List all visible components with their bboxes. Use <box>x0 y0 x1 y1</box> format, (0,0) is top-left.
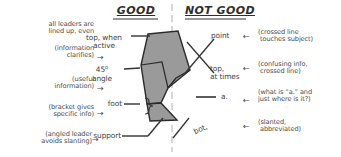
degree-symbol-icon: o <box>105 64 108 70</box>
leader-45-angle <box>124 68 140 69</box>
subject-part-foot-divider <box>147 103 161 104</box>
note-what-is-a: (what is “a.” and just where is it?) <box>258 89 340 104</box>
label-45-angle: 45o angle <box>82 65 122 83</box>
note-slanted-abbreviated: (slanted, abbreviated) <box>258 119 340 134</box>
label-a: a. <box>221 93 228 101</box>
label-angle-word: angle <box>92 74 112 83</box>
label-point: point <box>211 32 229 40</box>
label-bot: bot, <box>193 123 209 136</box>
arrow-left-icon-crossed-touches: ← <box>243 33 250 41</box>
label-top-when-active: top, when active <box>78 34 130 51</box>
arrow-left-icon-confusing: ← <box>243 65 250 73</box>
label-foot: foot <box>92 100 122 108</box>
arrow-right-icon-bracket: → <box>97 110 104 118</box>
arrow-right-icon-useful: → <box>97 85 104 93</box>
good-title: GOOD <box>113 5 159 17</box>
arrow-right-icon-clarifies: → <box>97 54 104 62</box>
subject-part-body <box>141 31 190 104</box>
note-confusing-info: (confusing info, crossed line) <box>258 61 340 76</box>
not-good-title: NOT GOOD <box>185 5 247 17</box>
note-bracket-specific-info: (bracket gives specific info) <box>4 104 94 119</box>
arrow-left-icon-slanted: ← <box>243 123 250 131</box>
subject-part-inner-edge <box>141 62 168 88</box>
label-support: support <box>79 132 121 140</box>
label-top-at-times: top, at times <box>210 65 240 82</box>
note-crossed-line-touches: (crossed line touches subject) <box>258 29 340 44</box>
arrow-left-icon-what-is-a: ← <box>243 97 250 105</box>
leader-line-comparison-diagram: GOOD NOT GOOD all leaders are lined up, … <box>0 0 341 157</box>
foot-bracket <box>145 98 153 114</box>
leader-support-angled <box>148 118 163 136</box>
subject-part-foot <box>147 103 177 121</box>
leader-bot-slanted <box>173 118 189 138</box>
subject-part-notch <box>168 70 190 88</box>
